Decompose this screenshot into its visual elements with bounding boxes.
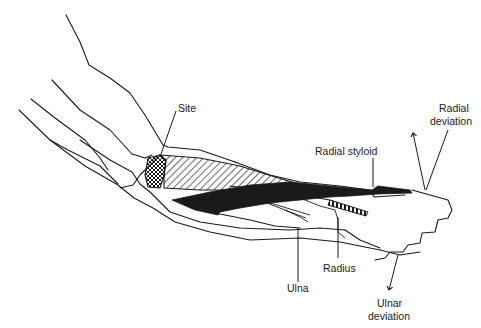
radius-bone <box>328 200 368 216</box>
radial-deviation-arrow-icon <box>413 133 425 190</box>
hand-outline <box>345 190 452 260</box>
label-radial-deviation-line2: deviation <box>430 115 472 127</box>
label-ulnar-deviation-line2: deviation <box>368 310 410 322</box>
label-radius: Radius <box>323 262 356 274</box>
label-site: Site <box>178 102 196 114</box>
ulnar-deviation-arrow-icon <box>389 255 398 290</box>
radial-deviation-leader <box>426 130 448 190</box>
label-radial-deviation-line1: Radial <box>439 102 469 114</box>
forearm-diagram: Site Radial styloid Radial deviation Rad… <box>0 0 481 328</box>
label-radial-styloid: Radial styloid <box>315 145 378 157</box>
site-region <box>145 155 166 188</box>
label-ulna: Ulna <box>287 282 309 294</box>
label-ulnar-deviation-line1: Ulnar <box>377 297 403 309</box>
site-leader <box>160 111 176 157</box>
